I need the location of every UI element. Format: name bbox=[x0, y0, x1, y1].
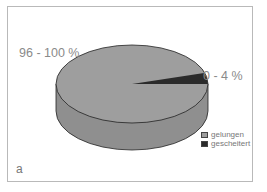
legend-label: gescheitert bbox=[211, 139, 250, 148]
label-gescheitert: 0 - 4 % bbox=[203, 69, 243, 83]
legend: gelungen gescheitert bbox=[201, 130, 250, 148]
label-gelungen: 96 - 100 % bbox=[19, 46, 79, 60]
panel-label: a bbox=[16, 162, 23, 176]
pie-chart bbox=[0, 0, 267, 192]
legend-swatch-gelungen bbox=[201, 132, 208, 138]
legend-swatch-gescheitert bbox=[201, 141, 208, 147]
legend-label: gelungen bbox=[211, 130, 244, 139]
legend-item-gescheitert: gescheitert bbox=[201, 139, 250, 148]
legend-item-gelungen: gelungen bbox=[201, 130, 250, 139]
